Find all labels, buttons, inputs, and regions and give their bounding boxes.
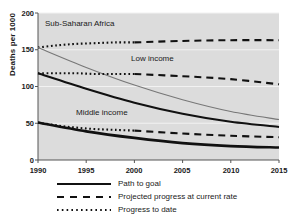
legend-label-progress-to-date: Progress to date [118, 205, 177, 214]
legend-label-path-to-goal: Path to goal [118, 179, 161, 188]
chart-legend: Path to goal Projected progress at curre… [0, 176, 292, 215]
legend-item-projected: Projected progress at current rate [56, 191, 237, 202]
legend-label-projected: Projected progress at current rate [118, 192, 237, 201]
legend-item-progress-to-date: Progress to date [56, 204, 177, 215]
series-label-low-income: Low income [131, 54, 174, 63]
chart-figure: Deaths per 1000 200 150 100 50 0 1990 19… [0, 0, 292, 215]
series-label-middle-income: Middle income [76, 108, 128, 117]
series-label-sub-saharan-africa: Sub-Saharan Africa [45, 19, 114, 28]
line-low-income-progress-to-date [38, 73, 134, 74]
legend-swatch-solid [56, 179, 112, 189]
legend-swatch-dashed [56, 192, 112, 202]
legend-item-path-to-goal: Path to goal [56, 178, 161, 189]
legend-swatch-dotted [56, 205, 112, 215]
